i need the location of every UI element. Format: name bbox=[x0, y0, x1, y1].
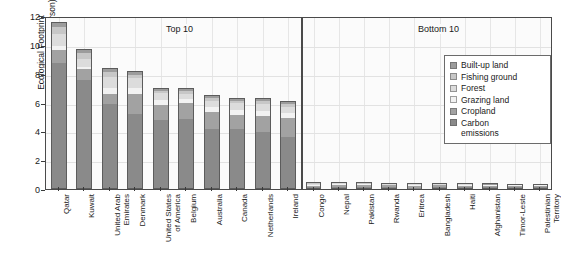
bar-australia bbox=[204, 95, 220, 189]
bar-kuwait bbox=[76, 49, 92, 189]
x-axis-label: Netherlands bbox=[266, 194, 275, 275]
x-axis-label: United States of America bbox=[164, 194, 182, 275]
bar-segment-carbon-emissions bbox=[77, 80, 91, 188]
bar-segment-cropland bbox=[52, 50, 66, 63]
bar-segment-forest bbox=[103, 77, 117, 88]
x-tick-mark bbox=[338, 187, 339, 191]
x-axis-label: Pakistan bbox=[367, 194, 376, 275]
x-axis-label: Timor-Leste bbox=[518, 194, 527, 275]
bar-segment-cropland bbox=[281, 118, 295, 137]
legend-item: Forest bbox=[450, 83, 546, 93]
bar-segment-carbon-emissions bbox=[230, 129, 244, 188]
legend-item: Carbon emissions bbox=[450, 118, 546, 138]
bar-segment-carbon-emissions bbox=[128, 114, 142, 188]
bar-segment-cropland bbox=[256, 116, 270, 132]
panel-divider bbox=[301, 18, 303, 189]
x-axis-label: Nepal bbox=[342, 194, 351, 275]
bar-segment-carbon-emissions bbox=[52, 63, 66, 188]
x-axis-label: Ireland bbox=[291, 194, 300, 275]
bar-segment-carbon-emissions bbox=[154, 120, 168, 188]
x-axis-label: Afghanistan bbox=[493, 194, 502, 275]
x-tick-mark bbox=[236, 187, 237, 191]
bar-segment-forest bbox=[128, 78, 142, 88]
y-tick-label: 0 bbox=[35, 185, 40, 195]
bar-segment-cropland bbox=[230, 115, 244, 129]
x-tick-mark bbox=[262, 187, 263, 191]
bar-segment-carbon-emissions bbox=[103, 104, 117, 188]
y-tick-label: 4 bbox=[35, 127, 40, 137]
bar-united-states-of-america bbox=[153, 88, 169, 189]
legend-label: Carbon emissions bbox=[461, 118, 499, 138]
x-tick-mark bbox=[439, 187, 440, 191]
bar-segment-forest bbox=[256, 104, 270, 111]
legend-swatch bbox=[450, 85, 457, 92]
legend-swatch bbox=[450, 108, 457, 115]
x-axis-label: Rwanda bbox=[392, 194, 401, 275]
panel-title-top10: Top 10 bbox=[164, 24, 195, 34]
legend-item: Grazing land bbox=[450, 95, 546, 105]
y-tick-label: 8 bbox=[35, 70, 40, 80]
x-tick-mark bbox=[464, 187, 465, 191]
bar-belgium bbox=[178, 88, 194, 189]
bar-segment-carbon-emissions bbox=[281, 137, 295, 188]
x-tick-mark bbox=[185, 187, 186, 191]
bar-segment-carbon-emissions bbox=[179, 119, 193, 188]
bar-segment-forest bbox=[52, 34, 66, 46]
x-axis-label: Belgium bbox=[189, 194, 198, 275]
bar-segment-cropland bbox=[103, 94, 117, 105]
bar-segment-cropland bbox=[77, 69, 91, 80]
legend-label: Forest bbox=[461, 83, 485, 93]
x-axis-label: Haiti bbox=[468, 194, 477, 275]
x-axis-label: Congo bbox=[317, 194, 326, 275]
bar-segment-cropland bbox=[128, 94, 142, 115]
bar-segment-cropland bbox=[205, 112, 219, 129]
x-axis-label: United Arab Emirates bbox=[113, 194, 131, 275]
legend-item: Cropland bbox=[450, 106, 546, 116]
legend-item: Built-up land bbox=[450, 60, 546, 70]
x-tick-mark bbox=[388, 187, 389, 191]
legend: Built-up landFishing groundForestGrazing… bbox=[444, 55, 551, 144]
bar-ireland bbox=[280, 101, 296, 189]
legend-label: Built-up land bbox=[461, 60, 508, 70]
y-tick-label: 6 bbox=[35, 99, 40, 109]
bar-qatar bbox=[51, 22, 67, 189]
bar-segment-fishing-ground bbox=[52, 27, 66, 34]
x-tick-mark bbox=[539, 187, 540, 191]
x-tick-mark bbox=[489, 187, 490, 191]
y-axis-ticks: 024681012 bbox=[0, 0, 40, 275]
legend-swatch bbox=[450, 62, 457, 69]
x-axis-label: Denmark bbox=[138, 194, 147, 275]
y-tick-label: 10 bbox=[30, 41, 40, 51]
legend-item: Fishing ground bbox=[450, 72, 546, 82]
bar-segment-carbon-emissions bbox=[205, 129, 219, 188]
bar-segment-carbon-emissions bbox=[256, 132, 270, 188]
legend-label: Cropland bbox=[461, 106, 496, 116]
x-axis-label: Palestinian Territory bbox=[543, 194, 561, 275]
y-tick-label: 12 bbox=[30, 12, 40, 22]
legend-swatch bbox=[450, 119, 457, 126]
x-axis-label: Canada bbox=[240, 194, 249, 275]
x-axis-label: Bangladesh bbox=[443, 194, 452, 275]
x-axis-label: Qatar bbox=[62, 194, 71, 275]
bar-segment-cropland bbox=[179, 103, 193, 119]
x-axis-label: Kuwait bbox=[87, 194, 96, 275]
x-tick-mark bbox=[413, 187, 414, 191]
legend-swatch bbox=[450, 96, 457, 103]
bar-segment-forest bbox=[77, 59, 91, 67]
legend-label: Fishing ground bbox=[461, 72, 517, 82]
x-tick-mark bbox=[160, 187, 161, 191]
x-tick-mark bbox=[313, 187, 314, 191]
bar-denmark bbox=[127, 71, 143, 189]
x-axis-label: Eritrea bbox=[417, 194, 426, 275]
y-tick-label: 2 bbox=[35, 156, 40, 166]
bar-canada bbox=[229, 98, 245, 189]
x-tick-mark bbox=[363, 187, 364, 191]
bar-netherlands bbox=[255, 98, 271, 189]
bar-segment-forest bbox=[230, 103, 244, 110]
x-tick-mark bbox=[109, 187, 110, 191]
x-tick-mark bbox=[134, 187, 135, 191]
x-tick-mark bbox=[83, 187, 84, 191]
x-tick-mark bbox=[58, 187, 59, 191]
x-axis-label: Australia bbox=[215, 194, 224, 275]
